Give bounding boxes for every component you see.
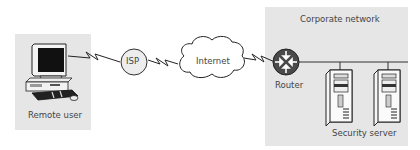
internet-label: Internet	[196, 56, 230, 66]
router-icon	[273, 49, 299, 75]
remote-user-label: Remote user	[28, 110, 82, 120]
wan-link-remote-isp	[68, 52, 120, 62]
wan-link-isp-internet	[148, 58, 178, 66]
corporate-network-label: Corporate network	[300, 14, 380, 24]
computer-icon	[26, 44, 78, 101]
isp-label: ISP	[126, 56, 139, 66]
security-server-label: Security server	[332, 128, 397, 138]
server-icon-1	[326, 70, 352, 126]
router-label: Router	[275, 80, 303, 90]
wan-link-internet-router	[244, 54, 275, 62]
server-icon-2	[374, 70, 400, 126]
